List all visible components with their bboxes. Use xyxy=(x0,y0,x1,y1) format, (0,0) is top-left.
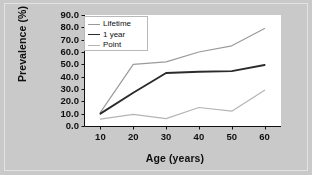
y-axis-label-text: Prevalence (%) xyxy=(16,6,28,82)
legend-swatch-lifetime xyxy=(88,24,100,25)
y-tick-label: 30.0 xyxy=(45,83,79,94)
x-axis-label: Age (years) xyxy=(60,148,290,166)
y-tick-label: 10.0 xyxy=(45,108,79,119)
legend-label-1-year: 1 year xyxy=(103,30,125,40)
y-axis-label: Prevalence (%) xyxy=(12,0,28,92)
legend-label-lifetime: Lifetime xyxy=(103,19,131,29)
legend-item-1-year: 1 year xyxy=(88,30,144,40)
x-tick-label: 60 xyxy=(252,131,278,142)
y-tick-label: 90.0 xyxy=(45,9,79,20)
y-tick-label: 20.0 xyxy=(45,95,79,106)
x-tick-label: 10 xyxy=(87,131,113,142)
figure-root: Prevalence (%) Age (years) Lifetime 1 ye… xyxy=(0,0,312,175)
legend-label-point: Point xyxy=(103,40,121,50)
y-tick-label: 60.0 xyxy=(45,46,79,57)
y-tick-label: 50.0 xyxy=(45,58,79,69)
x-tick-label: 30 xyxy=(153,131,179,142)
y-tick-label: 40.0 xyxy=(45,71,79,82)
y-tick-label: 0.0 xyxy=(45,120,79,131)
legend-item-point: Point xyxy=(88,40,144,50)
x-tick-label: 40 xyxy=(186,131,212,142)
chart-legend: Lifetime 1 year Point xyxy=(84,16,148,51)
x-axis-label-text: Age (years) xyxy=(146,152,204,164)
x-tick-label: 50 xyxy=(219,131,245,142)
legend-item-lifetime: Lifetime xyxy=(88,19,144,29)
legend-swatch-1-year xyxy=(88,34,100,35)
y-tick-label: 80.0 xyxy=(45,21,79,32)
x-tick-label: 20 xyxy=(120,131,146,142)
legend-swatch-point xyxy=(88,45,100,46)
y-tick-label: 70.0 xyxy=(45,34,79,45)
